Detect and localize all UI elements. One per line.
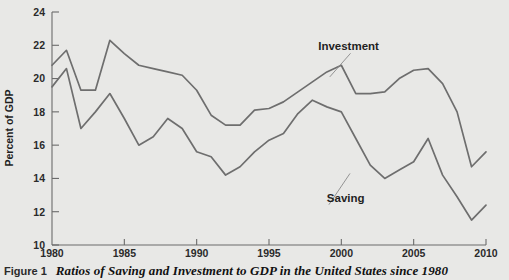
y-tick-label: 14 xyxy=(33,172,45,184)
x-axis-ticks: 1980198519901995200020052010 xyxy=(40,239,498,258)
y-axis-ticks: 1012141618202224 xyxy=(33,6,59,251)
x-tick-label: 2010 xyxy=(474,247,498,258)
series-annotations: InvestmentSaving xyxy=(318,40,379,204)
x-tick-label: 1990 xyxy=(185,247,209,258)
y-axis-title: Percent of GDP xyxy=(3,89,15,166)
series-label-investment: Investment xyxy=(318,40,379,52)
y-tick-label: 16 xyxy=(33,139,45,151)
figure-container: 1012141618202224 19801985199019952000200… xyxy=(0,0,509,280)
y-tick-label: 18 xyxy=(33,106,45,118)
figure-caption: Figure 1Ratios of Saving and Investment … xyxy=(4,261,509,278)
line-chart: 1012141618202224 19801985199019952000200… xyxy=(0,0,509,258)
x-tick-label: 1995 xyxy=(257,247,281,258)
figure-title: Ratios of Saving and Investment to GDP i… xyxy=(56,263,448,278)
series-line-investment xyxy=(52,40,486,166)
x-tick-label: 2000 xyxy=(330,247,354,258)
y-tick-label: 24 xyxy=(33,6,45,18)
data-series-group xyxy=(52,40,486,220)
annotation-leader-line xyxy=(330,53,351,77)
x-tick-label: 2005 xyxy=(402,247,426,258)
figure-number: Figure 1 xyxy=(4,265,47,277)
y-tick-label: 20 xyxy=(33,72,45,84)
y-tick-label: 12 xyxy=(33,206,45,218)
x-tick-label: 1980 xyxy=(40,247,64,258)
y-tick-label: 22 xyxy=(33,39,45,51)
series-line-saving xyxy=(52,69,486,220)
x-tick-label: 1985 xyxy=(113,247,137,258)
series-label-saving: Saving xyxy=(327,192,365,204)
